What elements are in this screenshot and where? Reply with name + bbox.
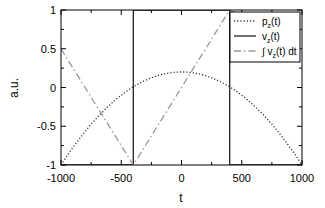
x-tick-label: 500 xyxy=(233,172,251,184)
legend: pz(t)vz(t)∫ vz(t) dt xyxy=(230,12,300,62)
x-tick-label: -1000 xyxy=(47,172,75,184)
x-tick-label: -500 xyxy=(110,172,132,184)
y-tick-label: 1 xyxy=(50,4,56,16)
y-tick-label: -1 xyxy=(46,159,56,171)
y-axis-label: a.u. xyxy=(7,78,21,98)
chart: -1000-50005001000 -1-0.500.51 t a.u. pz(… xyxy=(0,0,325,208)
series-line-0 xyxy=(61,72,302,165)
x-tick-label: 1000 xyxy=(290,172,314,184)
y-tick-label: -0.5 xyxy=(37,120,56,132)
y-tick-label: 0.5 xyxy=(41,43,56,55)
x-tick-label: 0 xyxy=(178,172,184,184)
x-axis-label: t xyxy=(179,191,183,205)
y-tick-label: 0 xyxy=(50,82,56,94)
